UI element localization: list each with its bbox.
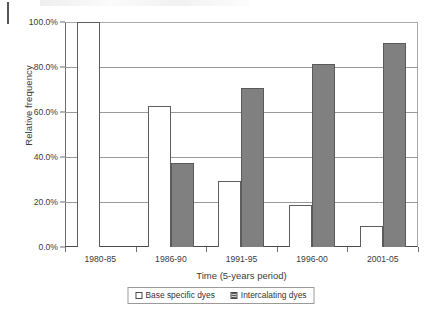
legend-item[interactable]: Base specific dyes — [135, 290, 214, 300]
bar-intercalating-dyes — [312, 64, 335, 247]
bar-group — [347, 22, 418, 247]
y-tick-label: 20.0% — [34, 197, 58, 207]
y-tick-label: 80.0% — [34, 62, 58, 72]
bar-intercalating-dyes — [241, 88, 264, 247]
x-tick-label: 1980-85 — [85, 254, 117, 264]
x-tick-mark — [418, 247, 419, 252]
legend-item-label: Base specific dyes — [145, 290, 214, 300]
bar-intercalating-dyes — [171, 163, 194, 247]
x-tick-mark — [136, 247, 137, 252]
bar-base-specific-dyes — [360, 226, 383, 247]
x-tick-label: 1991-95 — [226, 254, 258, 264]
open-square-swatch — [135, 292, 142, 299]
bar-group — [206, 22, 277, 247]
x-axis-title: Time (5-years period) — [65, 270, 418, 281]
bar-group — [65, 22, 136, 247]
hatched-square-swatch — [231, 292, 238, 299]
y-tick-label: 0.0% — [38, 242, 58, 252]
x-tick-mark — [347, 247, 348, 252]
legend-item[interactable]: Intercalating dyes — [231, 290, 307, 300]
plot-area-wrapper: 0.0%20.0%40.0%60.0%80.0%100.0% 1980-8519… — [65, 22, 418, 247]
x-tick-mark — [206, 247, 207, 252]
bar-group — [277, 22, 348, 247]
x-tick-mark — [65, 247, 66, 252]
x-tick-label: 1986-90 — [155, 254, 187, 264]
x-tick-label: 1996-00 — [296, 254, 328, 264]
y-axis-title: Relative frequency — [23, 6, 34, 206]
bar-base-specific-dyes — [218, 181, 241, 247]
bar-base-specific-dyes — [148, 106, 171, 247]
y-tick-label: 60.0% — [34, 107, 58, 117]
x-tick-mark — [277, 247, 278, 252]
y-tick-label: 100.0% — [29, 17, 58, 27]
bar-intercalating-dyes — [383, 43, 406, 247]
bar-base-specific-dyes — [289, 205, 312, 247]
legend-item-label: Intercalating dyes — [241, 290, 307, 300]
bar-chart-figure: Relative frequency 0.0%20.0%40.0%60.0%80… — [0, 0, 442, 318]
bar-base-specific-dyes — [77, 22, 100, 247]
chart-legend: Base specific dyesIntercalating dyes — [127, 287, 314, 304]
bar-group — [136, 22, 207, 247]
x-tick-label: 2001-05 — [367, 254, 399, 264]
y-tick-label: 40.0% — [34, 152, 58, 162]
